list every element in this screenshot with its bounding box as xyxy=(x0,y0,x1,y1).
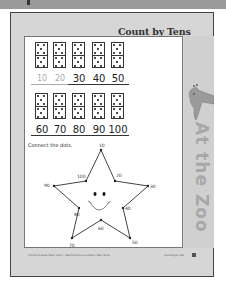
domino-dot xyxy=(94,52,96,54)
domino-dot xyxy=(37,44,39,46)
star-label: 80 xyxy=(74,212,80,217)
star-label: 90 xyxy=(44,183,50,188)
domino-dot xyxy=(119,103,121,105)
domino-dot xyxy=(55,65,57,67)
domino-dot xyxy=(58,99,60,101)
domino-dot xyxy=(100,65,102,67)
domino-dot xyxy=(37,103,39,105)
side-title: At the Zoo xyxy=(183,120,213,240)
domino-dot xyxy=(119,116,121,118)
domino-dot xyxy=(37,65,39,67)
domino-half xyxy=(112,43,123,55)
domino xyxy=(92,42,105,68)
count-label: 50 xyxy=(107,73,129,85)
domino-dot xyxy=(77,61,79,63)
count-label: 80 xyxy=(68,124,90,136)
star-dot-90[interactable] xyxy=(53,185,55,187)
domino xyxy=(111,42,124,68)
star-dot-10[interactable] xyxy=(100,149,102,151)
star-dot-40[interactable] xyxy=(122,207,124,209)
domino-dot xyxy=(61,57,63,59)
domino-dot xyxy=(100,44,102,46)
star-label: 100 xyxy=(77,174,86,179)
star-dot-100[interactable] xyxy=(85,180,87,182)
page-number-mark xyxy=(192,253,196,257)
domino-dot xyxy=(43,44,45,46)
star-label: 70 xyxy=(69,243,75,248)
domino-dot xyxy=(97,48,99,50)
domino-dot xyxy=(80,103,82,105)
domino-dot xyxy=(55,52,57,54)
smiley-face-icon xyxy=(88,192,111,210)
domino-dot xyxy=(58,61,60,63)
domino-dot xyxy=(55,108,57,110)
domino xyxy=(53,42,66,68)
domino-dot xyxy=(37,108,39,110)
domino-dot xyxy=(37,52,39,54)
star-dot-50[interactable] xyxy=(129,237,131,239)
domino xyxy=(72,93,85,119)
domino-half xyxy=(36,43,47,55)
domino-dot xyxy=(58,112,60,114)
domino-half xyxy=(112,55,123,67)
side-title-text: At the Zoo xyxy=(192,122,212,233)
star-dot-70[interactable] xyxy=(71,237,73,239)
domino-dot xyxy=(40,99,42,101)
star-label: 40 xyxy=(125,206,131,211)
count-label: 30 xyxy=(68,73,90,85)
domino-dot xyxy=(74,57,76,59)
domino-dot xyxy=(61,116,63,118)
domino-dot xyxy=(113,95,115,97)
domino-dot xyxy=(116,48,118,50)
domino-half xyxy=(36,94,47,106)
domino-dot xyxy=(80,44,82,46)
domino-half xyxy=(73,55,84,67)
domino-half xyxy=(54,43,65,55)
domino-half xyxy=(93,55,104,67)
domino-dot xyxy=(43,95,45,97)
domino-half xyxy=(73,106,84,118)
domino-dot xyxy=(113,116,115,118)
domino-dot xyxy=(74,65,76,67)
domino-half xyxy=(112,94,123,106)
domino-dot xyxy=(40,48,42,50)
domino-dot xyxy=(80,108,82,110)
domino-half xyxy=(93,106,104,118)
domino-dot xyxy=(40,61,42,63)
domino-dot xyxy=(113,52,115,54)
star-dot-60[interactable] xyxy=(100,219,102,221)
domino-dot xyxy=(61,95,63,97)
domino xyxy=(53,93,66,119)
domino-dot xyxy=(113,44,115,46)
domino-dot xyxy=(119,57,121,59)
domino-dot xyxy=(80,65,82,67)
star-dot-30[interactable] xyxy=(147,185,149,187)
domino-dot xyxy=(74,108,76,110)
domino-dot xyxy=(94,95,96,97)
domino-dot xyxy=(40,112,42,114)
domino-dot xyxy=(97,99,99,101)
domino-dot xyxy=(80,57,82,59)
domino-dot xyxy=(74,95,76,97)
domino-dot xyxy=(43,52,45,54)
domino-dot xyxy=(94,57,96,59)
domino-dot xyxy=(100,95,102,97)
domino-half xyxy=(73,94,84,106)
domino-dot xyxy=(116,99,118,101)
star-dot-20[interactable] xyxy=(114,180,116,182)
domino-dot xyxy=(80,95,82,97)
domino-dot xyxy=(94,116,96,118)
domino-dot xyxy=(77,48,79,50)
domino-dot xyxy=(74,103,76,105)
domino-dot xyxy=(113,103,115,105)
domino-dot xyxy=(55,116,57,118)
connect-dots-star: 10 20 30 40 50 60 70 80 90 100 xyxy=(20,140,190,250)
domino-dot xyxy=(43,65,45,67)
domino-dot xyxy=(100,108,102,110)
domino-dot xyxy=(55,95,57,97)
domino-dot xyxy=(55,44,57,46)
star-dot-80[interactable] xyxy=(78,207,80,209)
domino-dot xyxy=(61,44,63,46)
domino xyxy=(111,93,124,119)
domino-dot xyxy=(116,61,118,63)
